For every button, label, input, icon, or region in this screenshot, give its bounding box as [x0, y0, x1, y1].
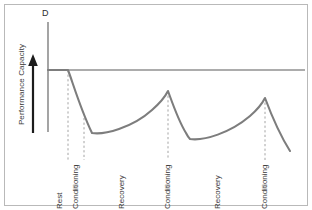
x-label-conditioning-1: Conditioning [71, 165, 80, 209]
performance-capacity-curve [48, 70, 290, 151]
y-axis-label: Performance Capacity [17, 20, 26, 150]
d-marker-label: D [42, 8, 49, 18]
x-label-conditioning-3: Conditioning [260, 165, 269, 209]
conditioning-guide-lines [68, 70, 265, 160]
figure-container: D Performance Capacity Rest Conditioning… [0, 0, 312, 210]
x-label-conditioning-2: Conditioning [163, 165, 172, 209]
x-label-recovery-1: Recovery [117, 175, 126, 209]
x-label-rest: Rest [55, 193, 64, 209]
x-label-recovery-2: Recovery [213, 175, 222, 209]
increasing-arrow-icon [28, 54, 38, 133]
